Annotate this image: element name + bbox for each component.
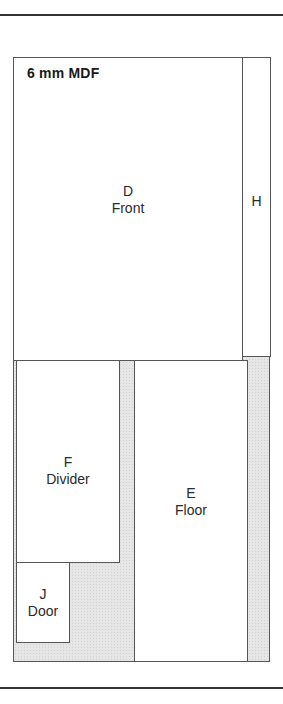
material-label: 6 mm MDF xyxy=(27,65,99,81)
piece-f-divider: F Divider xyxy=(16,360,120,563)
piece-code: H xyxy=(251,193,261,210)
piece-name: Floor xyxy=(175,502,207,519)
piece-e-floor: E Floor xyxy=(134,360,248,662)
piece-code: D xyxy=(123,183,133,200)
piece-j-door: J Door xyxy=(16,562,70,643)
piece-name: Front xyxy=(112,200,145,217)
piece-name: Divider xyxy=(46,471,90,488)
mdf-sheet: 6 mm MDF D Front H F Divider E Floor J D… xyxy=(13,57,270,662)
piece-code: E xyxy=(186,485,195,502)
piece-name: Door xyxy=(28,603,58,620)
piece-code: F xyxy=(64,454,73,471)
bottom-rule xyxy=(0,687,283,689)
piece-code: J xyxy=(40,586,47,603)
piece-h: H xyxy=(242,57,271,357)
piece-d-front: D Front xyxy=(13,57,243,361)
top-rule xyxy=(0,14,283,16)
